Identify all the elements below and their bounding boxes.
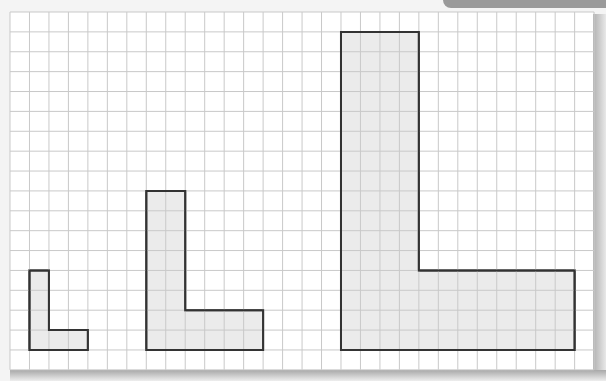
grid-diagram	[0, 0, 606, 381]
